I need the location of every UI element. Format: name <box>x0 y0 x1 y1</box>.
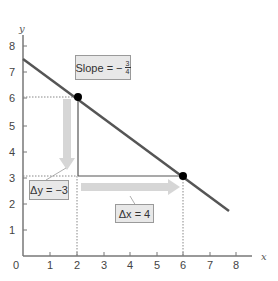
svg-text:0: 0 <box>13 259 19 271</box>
svg-text:3: 3 <box>101 259 107 271</box>
svg-text:2: 2 <box>74 259 80 271</box>
svg-text:3: 3 <box>9 172 15 184</box>
svg-text:7: 7 <box>207 259 213 271</box>
x-axis-label: x <box>261 251 267 262</box>
y-tick-labels: 1 2 3 4 5 6 7 8 <box>9 40 15 236</box>
svg-text:5: 5 <box>9 120 15 132</box>
svg-text:7: 7 <box>9 66 15 78</box>
slope-text: Slope = − <box>75 62 122 74</box>
svg-text:1: 1 <box>47 259 53 271</box>
delta-x-label: Δx = 4 <box>115 204 154 223</box>
point-6-3 <box>179 172 187 180</box>
slope-fraction: 3 4 <box>125 60 131 75</box>
slope-numerator: 3 <box>126 60 130 67</box>
chart-canvas: 1 2 3 4 5 6 7 8 0 1 2 3 4 5 6 7 8 y x <box>0 0 278 281</box>
svg-text:2: 2 <box>9 198 15 210</box>
svg-text:6: 6 <box>9 92 15 104</box>
y-axis-label: y <box>18 23 25 34</box>
delta-x-arrow <box>81 179 180 195</box>
svg-text:8: 8 <box>9 40 15 52</box>
delta-y-leader <box>46 168 66 180</box>
slope-denominator: 4 <box>126 68 130 75</box>
delta-y-label: Δy = −3 <box>29 180 69 200</box>
delta-y-arrow <box>59 99 75 170</box>
svg-text:5: 5 <box>154 259 160 271</box>
svg-text:6: 6 <box>180 259 186 271</box>
x-tick-labels: 0 1 2 3 4 5 6 7 8 <box>13 259 239 271</box>
point-2-6 <box>74 93 82 101</box>
svg-text:4: 4 <box>127 259 133 271</box>
svg-text:8: 8 <box>233 259 239 271</box>
svg-text:1: 1 <box>9 224 15 236</box>
slope-label: Slope = − 3 4 <box>75 55 131 80</box>
svg-text:4: 4 <box>9 146 15 158</box>
delta-x-text: Δx = 4 <box>119 208 151 220</box>
delta-y-text: Δy = −3 <box>30 184 68 196</box>
